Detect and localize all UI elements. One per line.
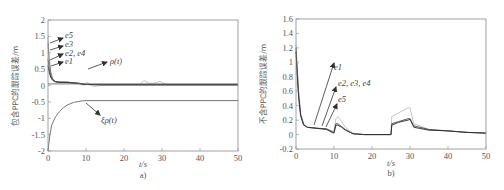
arrow-e1-icon <box>51 62 63 66</box>
arrow-e3-icon <box>50 46 63 50</box>
panel-b-xlabel: t/s <box>387 158 396 168</box>
y-tick-label: 0.5 <box>34 64 45 74</box>
y-tick-label: 1.6 <box>282 14 293 24</box>
panel-a-xlabel: t/s <box>139 159 148 169</box>
panel-b-annotations: e1 e2, e3, e4 e5 <box>314 62 371 127</box>
y-tick-label: 0.8 <box>282 72 293 82</box>
panel-b-caption: b) <box>387 168 394 178</box>
series-line-e5 <box>296 44 486 134</box>
x-tick-label: 40 <box>196 153 205 163</box>
y-tick-label: 1.5 <box>34 31 45 41</box>
x-tick-label: 20 <box>120 153 129 163</box>
label-b-e2-e3-e4: e2, e3, e4 <box>338 78 371 88</box>
label-b-e5: e5 <box>338 94 346 104</box>
y-tick-label: 2 <box>41 15 45 25</box>
arrow-rho-icon <box>88 62 107 69</box>
panel-a-axes-frame <box>48 20 238 151</box>
label-e1: e1 <box>65 56 73 66</box>
y-tick-label: 0.6 <box>282 86 293 96</box>
x-tick-label: 30 <box>158 153 167 163</box>
x-tick-label: 30 <box>406 151 415 161</box>
panel-a-ticks: 0102030405021.510.50-0.5-1-1.5-2 <box>32 15 243 163</box>
y-tick-label: -1 <box>38 113 45 123</box>
arrow-e2-e4-icon <box>50 54 63 60</box>
y-tick-label: 1 <box>289 57 293 67</box>
panel-b-ticks: 010203040501.61.41.210.80.60.40.20-0.2 <box>280 14 491 161</box>
panel-b: 010203040501.61.41.210.80.60.40.20-0.2 不… <box>258 14 490 178</box>
x-tick-label: 10 <box>82 153 91 163</box>
x-tick-label: 0 <box>294 151 298 161</box>
y-tick-label: 0 <box>289 130 293 140</box>
y-tick-label: 0 <box>41 81 45 91</box>
x-tick-label: 50 <box>234 153 243 163</box>
x-tick-label: 0 <box>46 153 50 163</box>
panel-a-ylabel: 包含PPC的跟踪误差/m <box>10 46 20 126</box>
x-tick-label: 40 <box>444 151 453 161</box>
label-b-e1: e1 <box>334 62 342 72</box>
y-tick-label: 1.2 <box>282 43 293 53</box>
label-rho: ρ(t) <box>109 56 122 66</box>
panel-b-ylabel: 不含PPC的跟踪误差/m <box>258 44 268 124</box>
label-xi-rho: ξρ(t) <box>101 115 117 125</box>
y-tick-label: 0.2 <box>282 115 293 125</box>
y-tick-label: -0.2 <box>280 144 293 154</box>
y-tick-label: 0.4 <box>282 101 293 111</box>
panel-b-series <box>296 44 486 134</box>
y-tick-label: -2 <box>38 146 45 156</box>
panel-a: 0102030405021.510.50-0.5-1-1.5-2 包含PPC的跟… <box>10 15 242 180</box>
y-tick-label: -0.5 <box>32 97 45 107</box>
series-line-e5 <box>48 37 238 87</box>
panel-a-caption: a) <box>140 170 147 180</box>
x-tick-label: 10 <box>330 151 339 161</box>
y-tick-label: -1.5 <box>32 130 45 140</box>
figure: 0102030405021.510.50-0.5-1-1.5-2 包含PPC的跟… <box>0 0 504 190</box>
arrow-e5-icon <box>50 38 63 43</box>
series-line--t- <box>48 101 238 151</box>
y-tick-label: 1.4 <box>282 28 293 38</box>
x-tick-label: 50 <box>482 151 491 161</box>
x-tick-label: 20 <box>368 151 377 161</box>
y-tick-label: 1 <box>41 48 45 58</box>
arrow-xi-rho-icon <box>86 103 100 115</box>
